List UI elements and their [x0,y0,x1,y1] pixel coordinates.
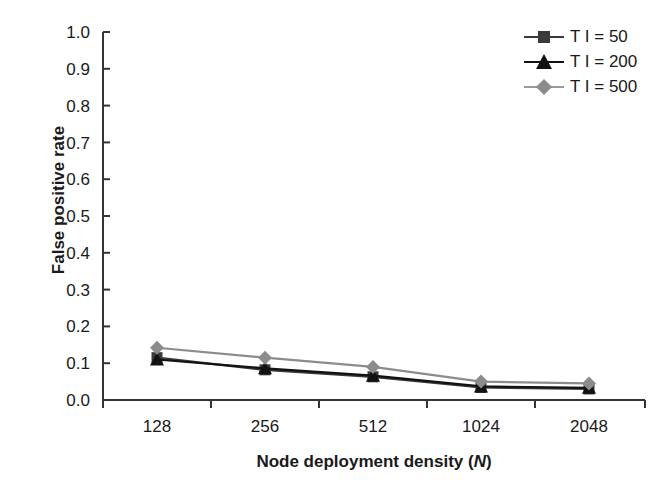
legend-label: T I = 50 [566,27,628,47]
legend-marker-diamond [522,76,566,98]
legend: T I = 50 T I = 200 T I = 500 [522,24,662,99]
legend-item: T I = 200 [522,49,662,74]
legend-label: T I = 500 [566,77,637,97]
legend-marker-triangle [522,51,566,73]
legend-marker-square [522,26,566,48]
legend-label: T I = 200 [566,52,637,72]
legend-item: T I = 50 [522,24,662,49]
chart-figure: False positive rate 1.0 0.9 0.8 0.7 0.6 … [0,0,669,496]
legend-item: T I = 500 [522,74,662,99]
